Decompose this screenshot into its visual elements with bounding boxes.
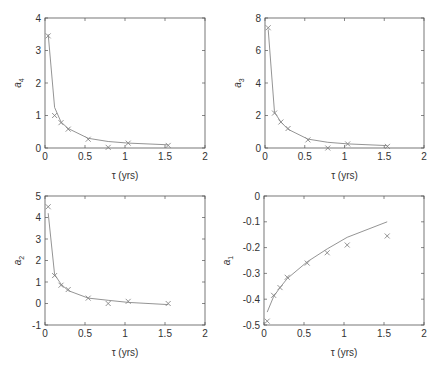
y-tick-label: 0 bbox=[35, 298, 41, 309]
y-tick-label: -0.1 bbox=[243, 216, 261, 227]
x-tick-label: 0 bbox=[42, 328, 48, 339]
x-marker-icon bbox=[126, 299, 131, 304]
y-axis-label: a3 bbox=[232, 78, 245, 88]
plot-frame bbox=[264, 196, 424, 325]
x-tick-label: 1.5 bbox=[377, 328, 391, 339]
y-tick-label: 0 bbox=[254, 191, 260, 202]
y-tick-label: 3 bbox=[35, 234, 41, 245]
y-tick-label: -1 bbox=[32, 320, 41, 331]
x-axis-label: τ (yrs) bbox=[112, 170, 139, 181]
x-tick-label: 0.5 bbox=[78, 328, 92, 339]
x-axis-label: τ (yrs) bbox=[331, 170, 358, 181]
y-tick-label: 0 bbox=[255, 143, 261, 154]
x-tick-label: 0 bbox=[261, 328, 267, 339]
x-tick-label: 2 bbox=[421, 328, 427, 339]
subplot-a2: 00.511.52-1012345τ (yrs)a2 bbox=[12, 191, 208, 359]
plot-frame bbox=[265, 18, 424, 148]
y-tick-label: 4 bbox=[35, 212, 41, 223]
x-axis-label: τ (yrs) bbox=[112, 347, 139, 358]
x-marker-icon bbox=[385, 233, 390, 238]
x-tick-label: 1 bbox=[122, 328, 128, 339]
x-tick-label: 1 bbox=[341, 328, 347, 339]
y-axis-label-sub: 4 bbox=[18, 78, 25, 82]
x-marker-icon bbox=[106, 301, 111, 306]
x-marker-icon bbox=[106, 145, 111, 150]
y-tick-label: 5 bbox=[35, 191, 41, 202]
y-tick-label: 2 bbox=[35, 255, 41, 266]
x-tick-label: 1.5 bbox=[158, 328, 172, 339]
y-axis-label-sub: 3 bbox=[238, 78, 245, 82]
y-axis-label-sub: 1 bbox=[227, 256, 234, 260]
y-tick-label: 0 bbox=[35, 143, 41, 154]
y-axis-label: a1 bbox=[221, 256, 234, 266]
x-marker-icon bbox=[345, 243, 350, 248]
x-axis-label: τ (yrs) bbox=[331, 347, 358, 358]
x-tick-label: 1.5 bbox=[377, 151, 391, 162]
fit-line bbox=[48, 213, 168, 304]
x-marker-icon bbox=[166, 301, 171, 306]
y-tick-label: 4 bbox=[35, 13, 41, 24]
y-axis-label: a4 bbox=[12, 78, 25, 88]
x-tick-label: 0.5 bbox=[78, 151, 92, 162]
x-marker-icon bbox=[325, 250, 330, 255]
y-tick-label: -0.3 bbox=[243, 268, 261, 279]
y-tick-label: 1 bbox=[35, 277, 41, 288]
y-tick-label: -0.4 bbox=[243, 294, 261, 305]
x-marker-icon bbox=[46, 204, 51, 209]
x-tick-label: 2 bbox=[202, 151, 208, 162]
x-tick-label: 1 bbox=[122, 151, 128, 162]
x-marker-icon bbox=[166, 143, 171, 148]
y-tick-label: 6 bbox=[255, 45, 261, 56]
fit-line bbox=[48, 34, 168, 145]
subplot-a3: 00.511.5202468τ (yrs)a3 bbox=[232, 13, 427, 182]
y-axis-label-sub: 2 bbox=[18, 256, 25, 260]
x-marker-icon bbox=[265, 319, 270, 324]
y-tick-label: 1 bbox=[35, 110, 41, 121]
y-tick-label: 2 bbox=[35, 78, 41, 89]
plot-frame bbox=[45, 196, 205, 325]
figure: 00.511.5201234τ (yrs)a4 00.511.5202468τ … bbox=[0, 0, 442, 373]
y-axis-label: a2 bbox=[12, 256, 25, 266]
x-tick-label: 0.5 bbox=[298, 151, 312, 162]
subplot-a4: 00.511.5201234τ (yrs)a4 bbox=[12, 13, 208, 182]
y-tick-label: 2 bbox=[255, 110, 261, 121]
x-tick-label: 0.5 bbox=[297, 328, 311, 339]
fit-line bbox=[267, 222, 387, 312]
x-tick-label: 0 bbox=[42, 151, 48, 162]
y-tick-label: 3 bbox=[35, 45, 41, 56]
y-tick-label: -0.5 bbox=[243, 320, 261, 331]
x-tick-label: 1.5 bbox=[158, 151, 172, 162]
x-tick-label: 2 bbox=[421, 151, 427, 162]
fit-line bbox=[268, 29, 387, 145]
x-tick-label: 1 bbox=[342, 151, 348, 162]
y-tick-label: 8 bbox=[255, 13, 261, 24]
y-tick-label: -0.2 bbox=[243, 242, 261, 253]
subplot-a1: 00.511.52-0.5-0.4-0.3-0.2-0.10τ (yrs)a1 bbox=[221, 191, 427, 359]
x-marker-icon bbox=[52, 113, 57, 118]
y-tick-label: 4 bbox=[255, 78, 261, 89]
x-tick-label: 2 bbox=[202, 328, 208, 339]
x-tick-label: 0 bbox=[262, 151, 268, 162]
